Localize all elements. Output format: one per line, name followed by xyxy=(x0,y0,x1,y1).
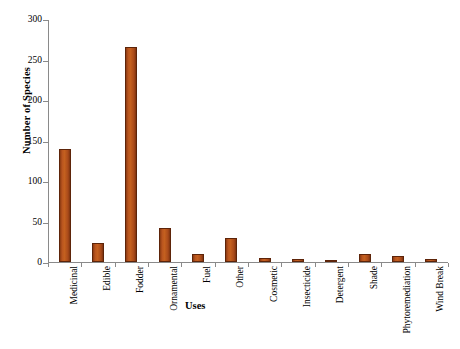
bar-shade xyxy=(348,20,381,262)
x-label-fodder: Fodder xyxy=(135,266,145,349)
x-label-shade: Shade xyxy=(369,266,379,349)
bar-rect xyxy=(192,254,204,262)
bar-rect xyxy=(125,47,137,262)
bar-series xyxy=(48,20,448,262)
bar-phytoremediation xyxy=(381,20,414,262)
y-tick-label: 300 xyxy=(10,15,42,25)
bar-rect xyxy=(359,254,371,262)
x-label-ornamental: Ornamental xyxy=(169,266,179,349)
y-tick-label: 200 xyxy=(10,96,42,106)
y-tick-label: 0 xyxy=(10,258,42,268)
bar-wind-break xyxy=(415,20,448,262)
x-axis-tick-labels: MedicinalEdibleFodderOrnamentalFuelOther… xyxy=(48,266,448,346)
y-tick-label: 250 xyxy=(10,56,42,66)
x-label-insecticide: Insecticide xyxy=(302,266,312,349)
y-tick-label: 150 xyxy=(10,137,42,147)
bar-rect xyxy=(325,260,337,262)
bar-detergent xyxy=(315,20,348,262)
bar-fodder xyxy=(115,20,148,262)
plot-area: 050100150200250300 xyxy=(48,20,448,263)
bar-edible xyxy=(81,20,114,262)
bar-rect xyxy=(392,256,404,262)
bar-rect xyxy=(225,238,237,262)
x-label-edible: Edible xyxy=(102,266,112,349)
bar-rect xyxy=(159,228,171,262)
bar-fuel xyxy=(181,20,214,262)
x-label-wind-break: Wind Break xyxy=(435,266,445,349)
y-tick-label: 50 xyxy=(10,218,42,228)
bar-rect xyxy=(259,258,271,262)
x-label-phytoremediation: Phytoremediation xyxy=(402,266,412,349)
bar-rect xyxy=(292,259,304,262)
x-label-medicinal: Medicinal xyxy=(69,266,79,349)
bar-ornamental xyxy=(148,20,181,262)
bar-rect xyxy=(425,259,437,262)
y-tick-label: 100 xyxy=(10,177,42,187)
bar-insecticide xyxy=(281,20,314,262)
x-label-detergent: Detergent xyxy=(335,266,345,349)
bar-rect xyxy=(59,149,71,262)
bar-other xyxy=(215,20,248,262)
bar-cosmetic xyxy=(248,20,281,262)
bar-medicinal xyxy=(48,20,81,262)
x-label-other: Other xyxy=(235,266,245,349)
x-axis-title: Uses xyxy=(185,300,205,311)
bar-rect xyxy=(92,243,104,262)
x-label-cosmetic: Cosmetic xyxy=(269,266,279,349)
bar-chart: Number of Species 050100150200250300 Med… xyxy=(0,0,460,349)
x-tick xyxy=(448,263,449,267)
